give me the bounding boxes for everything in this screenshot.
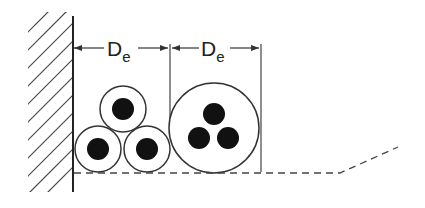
dimension-label-sub: e: [216, 48, 224, 65]
cable-spacing-diagram: De De: [0, 0, 425, 208]
three-core-cable: [169, 83, 259, 173]
svg-text:De: De: [107, 37, 131, 65]
dimension-label-sub: e: [122, 48, 130, 65]
dimension-label-main: D: [201, 37, 216, 60]
dimension-de-1: De: [74, 37, 168, 65]
conductor-bottom-left: [87, 138, 109, 160]
wall-hatching: [20, 0, 78, 208]
conductor-top: [112, 98, 134, 120]
dimension-label-main: D: [107, 37, 122, 60]
conductor-right: [217, 127, 239, 149]
svg-text:De: De: [201, 37, 225, 65]
cable-sheath: [169, 83, 259, 173]
conductor-bottom-right: [136, 138, 158, 160]
trefoil-cable-group: [75, 86, 170, 172]
conductor-left: [188, 127, 210, 149]
conductor-top: [203, 103, 225, 125]
dimension-de-2: De: [172, 37, 259, 65]
